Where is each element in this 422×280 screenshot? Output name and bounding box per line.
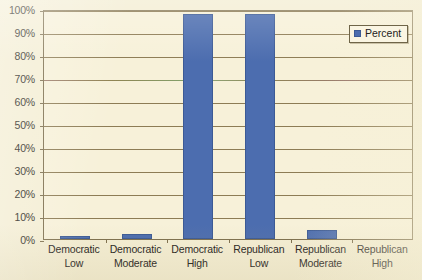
x-axis-category-label-line: Republican xyxy=(295,243,346,255)
y-axis-tick-label: 20% xyxy=(0,189,35,200)
bar xyxy=(122,234,152,239)
x-axis-category-label: DemocraticLow xyxy=(43,243,105,270)
y-axis-tick xyxy=(40,11,44,12)
y-axis-tick xyxy=(40,218,44,219)
y-axis-tick xyxy=(40,103,44,104)
x-axis-category-label-line: Republican xyxy=(233,243,284,255)
gridline xyxy=(44,172,412,173)
bar-chart: 0%10%20%30%40%50%60%70%80%90%100% Democr… xyxy=(0,0,422,280)
x-axis-category-label-line: Republican xyxy=(357,243,408,255)
y-axis-tick-label: 70% xyxy=(0,74,35,85)
gridline xyxy=(44,149,412,150)
percent-series-swatch xyxy=(354,30,361,37)
y-axis-tick-label: 40% xyxy=(0,143,35,154)
x-axis-category-label: RepublicanLow xyxy=(228,243,290,270)
y-axis-tick-label: 10% xyxy=(0,212,35,223)
y-axis-tick-label: 50% xyxy=(0,120,35,131)
bar xyxy=(183,14,213,239)
gridline xyxy=(44,80,412,81)
x-axis-category-label: DemocraticHigh xyxy=(166,243,228,270)
bar xyxy=(307,230,337,239)
y-axis-tick-label: 30% xyxy=(0,166,35,177)
bar xyxy=(245,14,275,239)
gridline xyxy=(44,218,412,219)
y-axis-tick xyxy=(40,149,44,150)
gridline xyxy=(44,57,412,58)
gridline xyxy=(44,195,412,196)
x-axis-category-label-line: Moderate xyxy=(290,257,352,271)
legend-item-label: Percent xyxy=(365,28,401,39)
y-axis-tick xyxy=(40,80,44,81)
y-axis-tick xyxy=(40,241,44,242)
x-axis-category-label-line: High xyxy=(351,257,413,271)
x-axis-category-label-line: Democratic xyxy=(48,243,100,255)
x-axis-labels: DemocraticLowDemocraticModerateDemocrati… xyxy=(43,243,413,279)
y-axis-tick xyxy=(40,172,44,173)
bar xyxy=(60,236,90,239)
x-axis-category-label: DemocraticModerate xyxy=(105,243,167,270)
gridline xyxy=(44,103,412,104)
chart-legend: Percent xyxy=(349,25,408,43)
gridline xyxy=(44,11,412,12)
x-axis-category-label-line: Low xyxy=(228,257,290,271)
x-axis-category-label: RepublicanHigh xyxy=(351,243,413,270)
x-axis-category-label-line: High xyxy=(166,257,228,271)
y-axis-tick-label: 100% xyxy=(0,5,35,16)
y-axis-tick xyxy=(40,57,44,58)
x-axis-category-label-line: Democratic xyxy=(110,243,162,255)
x-axis-category-label-line: Moderate xyxy=(105,257,167,271)
y-axis-tick-label: 0% xyxy=(0,235,35,246)
y-axis-tick xyxy=(40,34,44,35)
plot-area xyxy=(43,10,413,240)
y-axis-tick-label: 90% xyxy=(0,28,35,39)
x-axis-category-label-line: Democratic xyxy=(171,243,223,255)
gridline xyxy=(44,126,412,127)
y-axis-tick-label: 80% xyxy=(0,51,35,62)
x-axis-category-label: RepublicanModerate xyxy=(290,243,352,270)
x-axis-category-label-line: Low xyxy=(43,257,105,271)
y-axis-tick xyxy=(40,195,44,196)
y-axis-tick xyxy=(40,126,44,127)
y-axis-tick-label: 60% xyxy=(0,97,35,108)
